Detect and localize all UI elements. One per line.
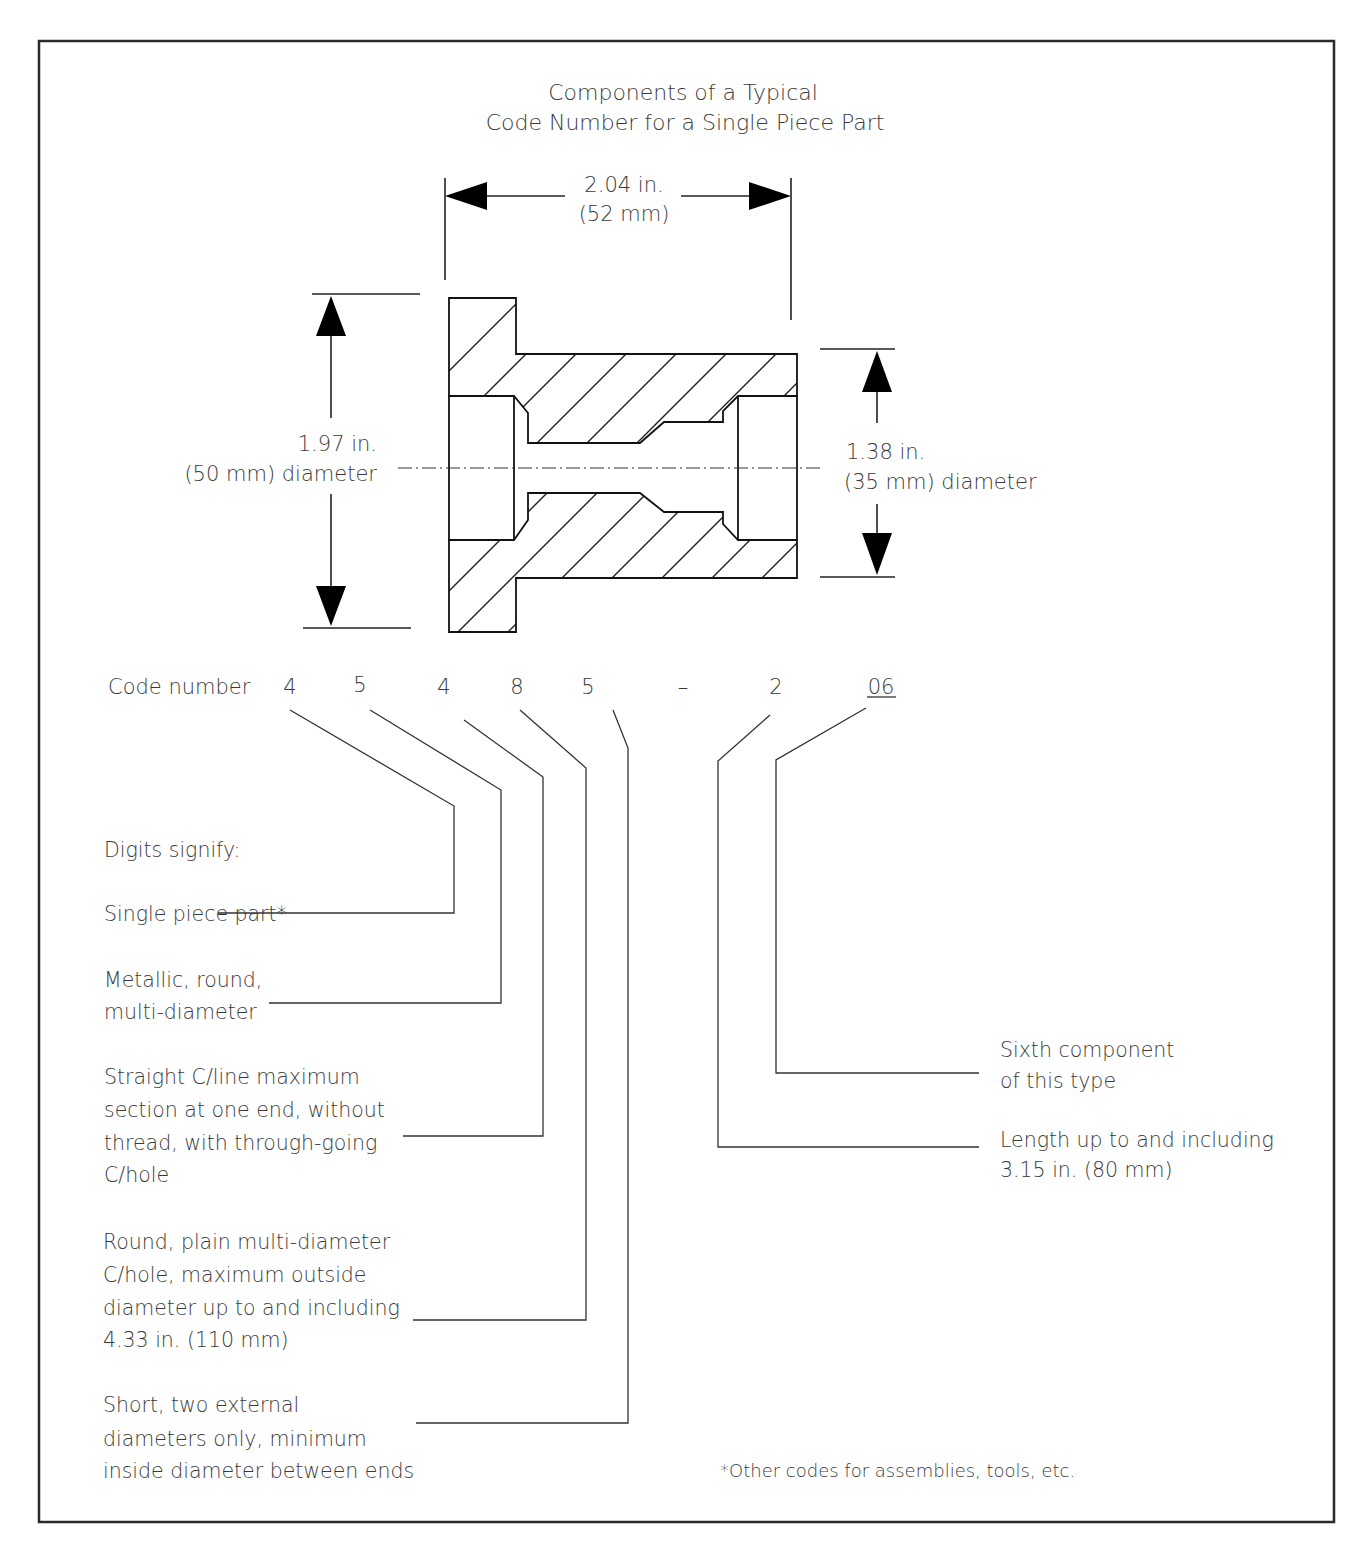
code-number-label: Code number	[108, 675, 251, 699]
legend-item-5-line-1: Short, two external	[103, 1393, 299, 1417]
arrow-down-icon	[316, 586, 346, 626]
legend-right-item-2-line-2: 3.15 in. (80 mm)	[1000, 1158, 1172, 1182]
figure-title-line2: Code Number for a Single Piece Part	[486, 110, 885, 135]
legend-item-3-line-2: section at one end, without	[104, 1098, 385, 1122]
arrow-right-icon	[749, 182, 791, 210]
legend-item-2-line-2: multi-diameter	[104, 1000, 257, 1024]
section-hatching-upper	[380, 260, 920, 460]
code-digit-4: 8	[510, 675, 523, 699]
legend-item-3-line-3: thread, with through-going	[104, 1131, 377, 1155]
code-digit-5: 5	[581, 675, 594, 699]
large-diameter-mm: (50 mm) diameter	[184, 462, 377, 486]
legend-right-item-2-line-1: Length up to and including	[1000, 1128, 1274, 1152]
legend-right-item-1-line-1: Sixth component	[1000, 1038, 1174, 1062]
code-digit-6: 2	[769, 675, 782, 699]
length-dim-mm: (52 mm)	[579, 202, 670, 226]
legend-item-4-line-2: C/hole, maximum outside	[103, 1263, 366, 1287]
small-diameter-mm: (35 mm) diameter	[844, 470, 1037, 494]
legend-right: Sixth component of this type Length up t…	[1000, 1038, 1274, 1182]
code-separator: –	[678, 675, 689, 699]
small-diameter-inches: 1.38 in.	[846, 440, 925, 464]
legend-item-4-line-4: 4.33 in. (110 mm)	[103, 1328, 288, 1352]
legend-item-2-line-1: Metallic, round,	[104, 968, 262, 992]
legend-item-3-line-4: C/hole	[104, 1163, 169, 1187]
large-diameter-dimension: 1.97 in. (50 mm) diameter	[184, 294, 420, 628]
legend-heading: Digits signify:	[104, 838, 240, 862]
legend-left: Digits signify: Single piece part* Metal…	[103, 838, 414, 1483]
arrow-up-icon	[862, 351, 892, 392]
small-diameter-dimension: 1.38 in. (35 mm) diameter	[820, 349, 1037, 577]
code-digit-3: 4	[437, 675, 450, 699]
legend-item-4-line-3: diameter up to and including	[103, 1296, 400, 1320]
figure-title-line1: Components of a Typical	[548, 80, 818, 105]
arrow-down-icon	[862, 533, 892, 575]
legend-right-item-1-line-2: of this type	[1000, 1069, 1116, 1093]
large-diameter-inches: 1.97 in.	[298, 432, 377, 456]
code-digit-2: 5	[353, 673, 366, 697]
code-digit-1: 4	[283, 675, 296, 699]
legend-item-4-line-1: Round, plain multi-diameter	[103, 1230, 391, 1254]
legend-item-5-line-3: inside diameter between ends	[103, 1459, 414, 1483]
footnote: *Other codes for assemblies, tools, etc.	[720, 1460, 1075, 1481]
arrow-up-icon	[316, 296, 346, 336]
code-digits-7-8: 06	[868, 675, 895, 699]
legend-item-3-line-1: Straight C/line maximum	[104, 1065, 360, 1089]
legend-item-1-line-1: Single piece part*	[104, 902, 287, 926]
diagram-canvas: Components of a Typical Code Number for …	[0, 0, 1362, 1549]
legend-item-5-line-2: diameters only, minimum	[103, 1427, 367, 1451]
code-number-row: Code number 4 5 4 8 5 – 2 06	[108, 673, 896, 699]
arrow-left-icon	[445, 182, 487, 210]
length-dim-inches: 2.04 in.	[584, 173, 663, 197]
